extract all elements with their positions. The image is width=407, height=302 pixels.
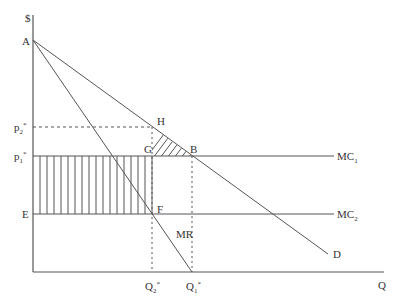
mr-label: MR bbox=[176, 228, 194, 240]
p1-label: p1* bbox=[14, 150, 27, 165]
point-g-label: G bbox=[144, 143, 152, 155]
q2-label: Q2* bbox=[145, 280, 160, 295]
point-e-label: E bbox=[22, 208, 29, 220]
p2-label: p2* bbox=[14, 121, 27, 136]
x-axis-label: Q bbox=[378, 279, 386, 291]
profit-change-rectangle bbox=[40, 156, 152, 214]
point-f-label: F bbox=[157, 203, 163, 215]
demand-label: D bbox=[333, 248, 341, 260]
mc1-label: MC1 bbox=[337, 150, 358, 165]
point-a-label: A bbox=[22, 35, 30, 47]
q1-label: Q1* bbox=[186, 280, 201, 295]
y-axis-label: $ bbox=[25, 12, 31, 24]
point-h-label: H bbox=[157, 115, 165, 127]
demand-curve bbox=[33, 40, 328, 254]
mc2-label: MC2 bbox=[337, 208, 358, 223]
economics-diagram: $ Q A H G B F E MC1 MC2 MR D p2* p1* Q2*… bbox=[0, 0, 407, 302]
point-b-label: B bbox=[190, 143, 197, 155]
